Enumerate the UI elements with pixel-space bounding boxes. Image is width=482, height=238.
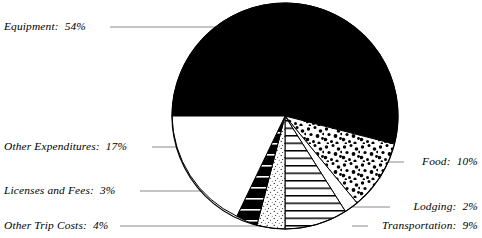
label-other-trip-costs-name: Other Trip Costs:: [4, 219, 87, 231]
label-equipment-name: Equipment:: [4, 20, 59, 32]
label-licenses-and-fees-name: Licenses and Fees:: [4, 184, 94, 196]
label-food-value: 10%: [457, 155, 478, 167]
label-equipment-value: 54%: [65, 20, 86, 32]
label-licenses-and-fees-value: 3%: [100, 184, 115, 196]
label-food: Food: 10%: [422, 155, 478, 167]
label-other-expenditures: Other Expenditures: 17%: [4, 140, 127, 152]
label-lodging-value: 2%: [463, 200, 478, 212]
label-transportation: Transportation: 9%: [382, 219, 478, 231]
label-lodging: Lodging: 2%: [414, 200, 478, 212]
pie-slices: [172, 3, 398, 229]
label-other-expenditures-value: 17%: [106, 140, 127, 152]
label-other-expenditures-name: Other Expenditures:: [4, 140, 100, 152]
label-lodging-name: Lodging:: [414, 200, 457, 212]
label-other-trip-costs: Other Trip Costs: 4%: [4, 219, 108, 231]
label-transportation-name: Transportation:: [382, 219, 456, 231]
label-transportation-value: 9%: [463, 219, 478, 231]
label-other-trip-costs-value: 4%: [93, 219, 108, 231]
label-licenses-and-fees: Licenses and Fees: 3%: [4, 184, 116, 196]
pie-chart-figure: Equipment: 54% Other Expenditures: 17% L…: [0, 0, 482, 238]
label-food-name: Food:: [422, 155, 451, 167]
label-equipment: Equipment: 54%: [4, 20, 86, 32]
pie-chart-svg: [0, 0, 482, 238]
